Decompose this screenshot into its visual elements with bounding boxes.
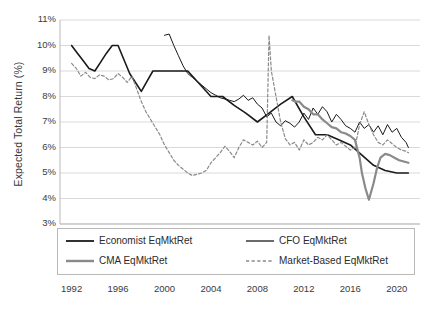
legend-swatch-icon: [66, 257, 94, 265]
legend-item[interactable]: Economist EqMktRet: [66, 235, 192, 246]
x-tick-label: 2000: [145, 283, 185, 294]
legend-swatch-icon: [246, 257, 274, 265]
chart-container: Expected Total Return (%) 11%10%9%8%7%6%…: [0, 0, 437, 310]
legend-label: CFO EqMktRet: [279, 235, 347, 246]
x-tick-label: 2004: [191, 283, 231, 294]
chart-legend: Economist EqMktRetCFO EqMktRetCMA EqMktR…: [57, 228, 415, 275]
x-tick-label: 2012: [284, 283, 324, 294]
x-tick-label: 2008: [237, 283, 277, 294]
x-tick-label: 2016: [330, 283, 370, 294]
x-tick-label: 1992: [52, 283, 92, 294]
x-tick-label: 2020: [377, 283, 417, 294]
legend-label: Market-Based EqMktRet: [279, 255, 388, 266]
x-tick-label: 1996: [98, 283, 138, 294]
legend-item[interactable]: CFO EqMktRet: [246, 235, 347, 246]
legend-swatch-icon: [66, 237, 94, 245]
legend-swatch-icon: [246, 237, 274, 245]
legend-item[interactable]: Market-Based EqMktRet: [246, 255, 388, 266]
legend-label: CMA EqMktRet: [99, 255, 167, 266]
legend-item[interactable]: CMA EqMktRet: [66, 255, 167, 266]
legend-label: Economist EqMktRet: [99, 235, 192, 246]
